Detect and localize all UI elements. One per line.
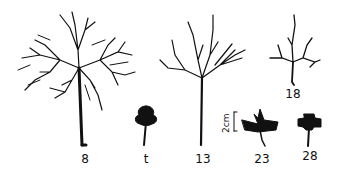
specimen-label: 8 <box>70 153 100 165</box>
specimen-28-drawing <box>298 114 321 146</box>
specimen-label: 13 <box>188 153 218 165</box>
scale-bar-label: 2cm <box>221 114 231 133</box>
specimen-t-drawing <box>135 106 156 145</box>
specimen-label: t <box>131 153 161 165</box>
specimen-13-drawing <box>160 15 245 145</box>
specimen-8-drawing <box>18 12 135 145</box>
specimen-label: 18 <box>278 88 308 100</box>
scale-bar <box>234 112 237 131</box>
specimen-23-drawing <box>242 109 278 146</box>
specimen-label: 28 <box>295 150 325 162</box>
specimen-18-drawing <box>270 15 320 85</box>
specimen-label: 23 <box>247 153 277 165</box>
